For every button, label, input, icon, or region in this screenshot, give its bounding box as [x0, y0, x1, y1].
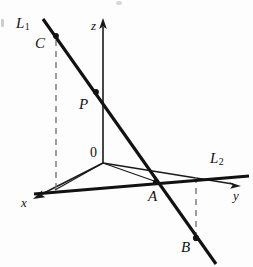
- y-axis-label: y: [233, 189, 239, 202]
- line-L1: [43, 19, 216, 264]
- point-P-label: P: [79, 97, 88, 112]
- geometry-figure: L1 L2 C P A B 0 z y x: [0, 0, 253, 267]
- point-C-marker: [53, 33, 59, 39]
- line-L2: [34, 176, 249, 194]
- scan-artifact-top: [116, 1, 122, 5]
- point-A-label: A: [148, 189, 157, 204]
- point-A-marker: [153, 179, 159, 185]
- origin-label: 0: [90, 146, 97, 160]
- origin-to-x-foot-segment: [55, 163, 103, 190]
- point-B-marker: [193, 235, 199, 241]
- point-C-label: C: [35, 36, 45, 51]
- point-B-label: B: [181, 240, 190, 255]
- line-L2-label: L2: [210, 151, 224, 167]
- line-L1-label: L1: [16, 16, 30, 32]
- point-P-marker: [93, 89, 99, 95]
- origin-to-A-segment: [103, 163, 157, 182]
- scan-artifact-left: [1, 19, 4, 27]
- x-axis-label: x: [21, 196, 27, 209]
- z-axis-label: z: [91, 19, 96, 32]
- axes-group: [33, 18, 241, 199]
